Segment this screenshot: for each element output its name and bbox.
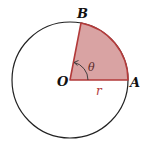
label-b: B (76, 6, 88, 21)
sector-diagram: B O A θ r (0, 0, 148, 146)
shaded-sector (70, 23, 128, 80)
label-theta: θ (88, 61, 95, 74)
label-o: O (57, 74, 69, 89)
label-r: r (96, 84, 103, 98)
label-a: A (128, 75, 140, 90)
